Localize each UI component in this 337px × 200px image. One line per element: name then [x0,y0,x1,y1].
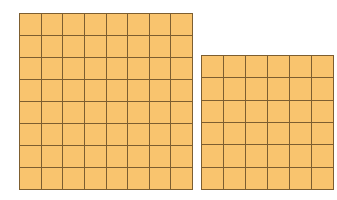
grid-cell [202,78,223,99]
grid-cell [128,168,149,189]
grid-cell [63,36,84,57]
grid-cell [150,58,171,79]
grid-cell [246,123,267,144]
grid-cell [107,124,128,145]
grid-cell [224,78,245,99]
grid-cell [107,146,128,167]
grid-cell [63,146,84,167]
grid-cell [224,56,245,77]
grid-cell [128,102,149,123]
grid-cell [171,58,192,79]
grid-cell [107,80,128,101]
grid-cell [85,58,106,79]
grid-cell [42,168,63,189]
grid-cell [20,36,41,57]
grid-cell [202,56,223,77]
grid-cell [290,78,311,99]
grid-cell [312,168,333,189]
grid-cell [312,145,333,166]
grid-cell [128,36,149,57]
grid-cell [63,102,84,123]
grid-cell [246,168,267,189]
grid-cell [150,14,171,35]
grid-cell [85,36,106,57]
grid-cell [150,36,171,57]
grid-cell [63,58,84,79]
grid-cell [312,56,333,77]
grid-cell [268,101,289,122]
grid-cell [268,123,289,144]
grid-cell [107,102,128,123]
grid-cell [42,80,63,101]
grid-cell [290,145,311,166]
grid-cell [107,36,128,57]
grid-cell [20,124,41,145]
grid-cell [202,145,223,166]
grid-cell [171,168,192,189]
grid-cell [290,101,311,122]
grid-cell [85,168,106,189]
grid-cell [63,14,84,35]
grid-cell [312,101,333,122]
grid-cell [20,14,41,35]
grid-cell [20,146,41,167]
grid-cell [42,124,63,145]
grid-6x6 [201,55,334,190]
grid-cell [171,124,192,145]
grid-cell [63,168,84,189]
grid-cell [171,14,192,35]
grid-cell [312,78,333,99]
grid-cell [63,124,84,145]
grid-cell [85,14,106,35]
grid-cell [63,80,84,101]
grid-cell [150,80,171,101]
grid-cell [171,80,192,101]
grid-cell [202,168,223,189]
grid-cell [128,14,149,35]
grid-cell [107,168,128,189]
grid-cell [224,168,245,189]
grid-cell [150,168,171,189]
grid-cell [268,56,289,77]
grid-cell [20,168,41,189]
grid-cell [42,14,63,35]
grid-cell [290,56,311,77]
grid-cell [85,80,106,101]
grid-cell [224,145,245,166]
grid-cell [202,101,223,122]
grid-cell [268,145,289,166]
grid-cell [42,36,63,57]
grid-cell [290,168,311,189]
grid-cell [312,123,333,144]
grid-cell [85,146,106,167]
grid-cell [224,101,245,122]
grid-cell [202,123,223,144]
grid-cell [246,145,267,166]
grid-cell [268,78,289,99]
grid-cell [20,102,41,123]
grid-cell [224,123,245,144]
grid-cell [290,123,311,144]
grid-cell [42,58,63,79]
grid-cell [20,58,41,79]
grid-cell [128,124,149,145]
grid-cell [150,146,171,167]
grid-cell [171,102,192,123]
grid-cell [128,58,149,79]
grid-cell [85,102,106,123]
grid-cell [246,56,267,77]
grid-cell [20,80,41,101]
grid-cell [171,146,192,167]
grid-cell [128,80,149,101]
grid-cell [85,124,106,145]
grid-cell [42,146,63,167]
grid-cell [268,168,289,189]
grid-cell [150,124,171,145]
grid-cell [107,14,128,35]
grid-cell [107,58,128,79]
grid-cell [150,102,171,123]
grid-cell [246,78,267,99]
grid-8x8 [19,13,193,190]
grid-cell [171,36,192,57]
grid-cell [128,146,149,167]
